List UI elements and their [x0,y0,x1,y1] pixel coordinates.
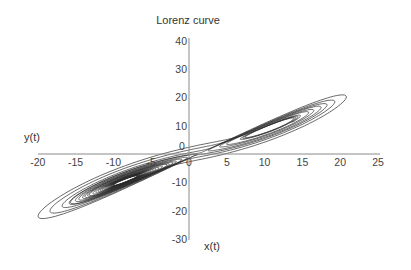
y-tick-label: 10 [175,120,187,132]
x-tick-label: -5 [147,156,156,168]
x-tick-label: -20 [30,156,45,168]
lorenz-chart: -20-15-10-50510152025 40302010-10-20-30 … [0,0,411,270]
x-tick-label: 20 [334,156,346,168]
y-tick-label: -20 [172,205,187,217]
y-tick-label: 30 [175,63,187,75]
x-tick-label: 0 [186,156,192,168]
x-axis-label: x(t) [204,240,220,252]
y-axis-label: y(t) [24,131,40,143]
x-tick-label: 25 [372,156,384,168]
y-tick-label: -10 [172,176,187,188]
x-tick-label: -15 [68,156,83,168]
y-tick-label: 40 [175,35,187,47]
y-tick-label: -30 [172,233,187,245]
x-tick-label: -10 [106,156,121,168]
origin-label: 0 [179,140,185,152]
x-tick-label: 10 [259,156,271,168]
x-tick-label: 15 [297,156,309,168]
x-tick-label: 5 [224,156,230,168]
y-tick-label: 20 [175,91,187,103]
